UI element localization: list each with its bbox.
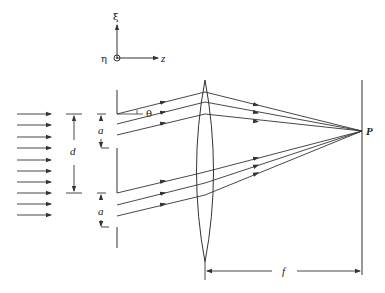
coordinate-axes: ξ η z <box>101 11 166 64</box>
lower-rays <box>117 131 362 216</box>
incident-wave-arrows <box>17 114 51 215</box>
bottom-slit-width-label: a <box>98 205 104 217</box>
top-slit-width-label: a <box>98 124 104 136</box>
focal-point-label: P <box>366 125 373 137</box>
eta-axis-label: η <box>101 53 107 64</box>
focal-length-label: f <box>282 265 287 277</box>
slit-separation-label: d <box>70 145 76 157</box>
angle-label: θ <box>146 108 152 119</box>
upper-rays <box>117 92 362 135</box>
double-slit-diagram: ξ η z d a a <box>0 0 385 293</box>
z-axis-label: z <box>160 52 166 64</box>
converging-lens <box>197 80 214 262</box>
xi-axis-label: ξ <box>113 11 119 22</box>
